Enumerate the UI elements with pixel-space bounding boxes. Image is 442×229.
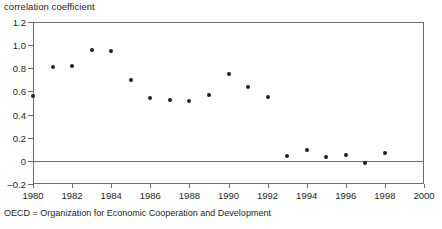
data-point	[129, 78, 133, 82]
x-tick	[346, 184, 347, 188]
y-tick	[28, 115, 33, 116]
data-point	[109, 49, 113, 53]
data-point	[31, 94, 35, 98]
data-point	[305, 148, 309, 152]
x-tick-label: 1994	[296, 190, 317, 201]
data-point	[227, 72, 231, 76]
x-tick-label: 1980	[22, 190, 43, 201]
data-point	[383, 151, 387, 155]
y-tick-label: 0.8	[0, 68, 26, 69]
data-point	[324, 155, 328, 159]
y-tick	[28, 68, 33, 69]
y-tick-label: 1.2	[0, 22, 26, 23]
x-tick	[424, 184, 425, 188]
plot-frame-right	[423, 22, 424, 184]
x-tick-label: 1998	[374, 190, 395, 201]
y-axis-title: correlation coefficient	[4, 1, 95, 12]
data-point	[266, 95, 270, 99]
x-tick	[72, 184, 73, 188]
plot-frame-top	[33, 22, 424, 23]
y-tick	[28, 45, 33, 46]
plot-frame-left	[33, 22, 34, 184]
y-tick-label: 0.6	[0, 91, 26, 92]
data-point	[285, 154, 289, 158]
x-tick	[33, 184, 34, 188]
x-tick	[229, 184, 230, 188]
x-tick-label: 1996	[335, 190, 356, 201]
y-tick	[28, 91, 33, 92]
y-tick	[28, 161, 33, 162]
data-point	[246, 85, 250, 89]
data-point	[90, 48, 94, 52]
y-tick-label: 0.2	[0, 137, 26, 138]
data-point	[363, 161, 367, 165]
x-tick	[150, 184, 151, 188]
x-tick-label: 1992	[257, 190, 278, 201]
figure-container: correlation coefficient –0.200.20.40.60.…	[0, 0, 442, 229]
footnote: OECD = Organization for Economic Coopera…	[4, 208, 271, 218]
y-tick-label: –0.2	[0, 184, 26, 185]
data-point	[207, 93, 211, 97]
x-tick-label: 1984	[101, 190, 122, 201]
x-tick-label: 1986	[140, 190, 161, 201]
plot-area: –0.200.20.40.60.81.01.2 1980198219841986…	[33, 22, 424, 184]
x-tick-label: 1990	[218, 190, 239, 201]
y-tick-label: 1.0	[0, 45, 26, 46]
x-tick	[189, 184, 190, 188]
x-tick	[385, 184, 386, 188]
data-point	[148, 96, 152, 100]
x-tick-label: 2000	[413, 190, 434, 201]
x-tick-label: 1982	[62, 190, 83, 201]
data-point	[70, 64, 74, 68]
y-tick	[28, 22, 33, 23]
data-point	[187, 99, 191, 103]
x-tick	[307, 184, 308, 188]
x-tick-label: 1988	[179, 190, 200, 201]
y-tick	[28, 138, 33, 139]
data-point	[168, 98, 172, 102]
x-tick	[111, 184, 112, 188]
data-point	[344, 153, 348, 157]
x-tick	[268, 184, 269, 188]
y-tick-label: 0	[0, 160, 26, 161]
y-tick-label: 0.4	[0, 114, 26, 115]
data-point	[51, 65, 55, 69]
